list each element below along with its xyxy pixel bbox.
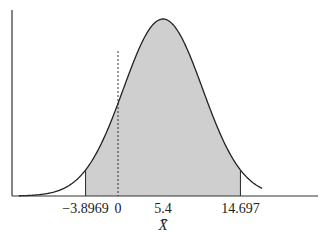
tick-label-upper: 14.697 <box>221 201 260 216</box>
tick-label-mean: 5.4 <box>154 201 172 216</box>
tick-label-lower: −3.8969 <box>62 201 108 216</box>
x-axis-title: X̄ <box>157 217 168 233</box>
tick-label-zero: 0 <box>115 201 122 216</box>
shaded-area <box>86 19 241 196</box>
normal-distribution-chart: −3.8969 0 5.4 14.697 X̄ <box>0 0 325 234</box>
x-tick-labels: −3.8969 0 5.4 14.697 <box>62 201 259 216</box>
